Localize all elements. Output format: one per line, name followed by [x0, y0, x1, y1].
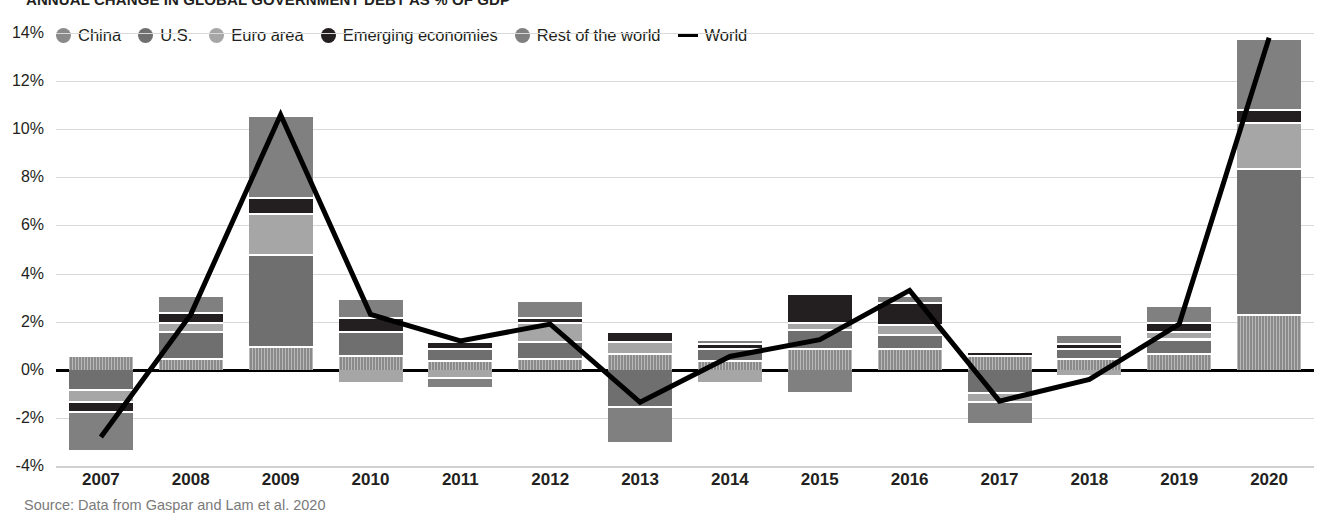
y-axis-labels: 14%12%10%8%6%4%2%0%-2%-4%: [0, 33, 48, 466]
x-tick-label-2017: 2017: [981, 470, 1019, 490]
x-axis-labels: 2007200820092010201120122013201420152016…: [56, 470, 1314, 500]
x-tick-label-2009: 2009: [262, 470, 300, 490]
x-tick-label-2019: 2019: [1160, 470, 1198, 490]
x-tick-label-2013: 2013: [621, 470, 659, 490]
y-tick-label-12: 12%: [0, 72, 44, 90]
y-tick-label-4: 4%: [0, 265, 44, 283]
x-tick-label-2011: 2011: [442, 470, 479, 490]
y-tick-label-8: 8%: [0, 168, 44, 186]
y-tick-label-10: 10%: [0, 120, 44, 138]
y-tick-label--2: -2%: [0, 409, 44, 427]
y-tick-label-6: 6%: [0, 216, 44, 234]
x-tick-label-2014: 2014: [711, 470, 749, 490]
world-line-path: [101, 38, 1269, 437]
y-tick-label-2: 2%: [0, 313, 44, 331]
plot-area: [56, 33, 1314, 466]
y-tick-label--4: -4%: [0, 457, 44, 475]
world-line-series: [56, 33, 1314, 466]
x-tick-label-2008: 2008: [172, 470, 210, 490]
y-tick-label-14: 14%: [0, 24, 44, 42]
x-tick-label-2018: 2018: [1070, 470, 1108, 490]
page-title: ANNUAL CHANGE IN GLOBAL GOVERNMENT DEBT …: [26, 0, 510, 8]
x-tick-label-2016: 2016: [891, 470, 929, 490]
x-tick-label-2020: 2020: [1250, 470, 1288, 490]
x-axis-baseline: [56, 466, 1314, 468]
y-tick-label-0: 0%: [0, 361, 44, 379]
x-tick-label-2007: 2007: [82, 470, 120, 490]
x-tick-label-2015: 2015: [801, 470, 839, 490]
x-tick-label-2010: 2010: [352, 470, 390, 490]
x-tick-label-2012: 2012: [531, 470, 569, 490]
source-note: Source: Data from Gaspar and Lam et al. …: [24, 497, 325, 513]
